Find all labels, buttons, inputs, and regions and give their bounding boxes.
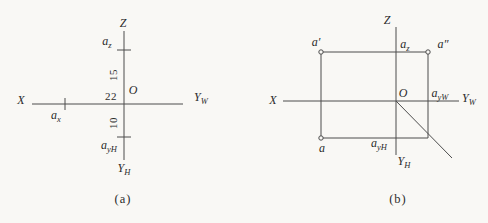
fig-b-point-a-side-marker xyxy=(426,50,430,54)
projection-figure: Z az 15 O X 22 ax YW 10 ayH YH (a) Z a′ … xyxy=(0,0,488,223)
fig-b-z-axis-label: Z xyxy=(384,14,391,26)
fig-a-z-axis-label: Z xyxy=(120,17,127,29)
fig-b-yh-axis-label: YH xyxy=(398,155,411,170)
fig-a-origin-label: O xyxy=(129,84,138,96)
fig-a-az-point-label: az xyxy=(102,35,111,50)
fig-a-yh-axis-label: YH xyxy=(118,162,131,177)
fig-b-a-front-label: a′ xyxy=(312,36,321,48)
fig-b-yw-axis-label: YW xyxy=(462,92,476,107)
figure-linework xyxy=(0,0,488,223)
fig-a-dim-15: 15 xyxy=(108,69,119,81)
fig-a-x-axis-label: X xyxy=(17,94,24,106)
fig-b-origin-label: O xyxy=(399,87,408,99)
fig-a-dim-22: 22 xyxy=(105,91,117,102)
fig-b-a-side-label: a″ xyxy=(438,38,449,50)
fig-b-caption: (b) xyxy=(389,193,407,206)
fig-b-az-point-label: az xyxy=(400,38,409,53)
fig-b-x-axis-label: X xyxy=(269,94,276,106)
fig-b-a-top-label: a xyxy=(319,142,325,154)
fig-a-yw-axis-label: YW xyxy=(194,91,208,106)
fig-a-ayh-point-label: ayH xyxy=(101,139,117,154)
fig-b-point-a-front-marker xyxy=(319,50,323,54)
fig-b-ayh-point-label: ayH xyxy=(371,137,387,152)
fig-a-caption: (a) xyxy=(115,193,132,206)
fig-a-ax-point-label: ax xyxy=(51,109,61,124)
fig-b-miter-45-line xyxy=(396,101,452,158)
fig-b-point-a-top-marker xyxy=(319,136,323,140)
fig-a-dim-10: 10 xyxy=(108,117,119,129)
fig-b-ayw-point-label: ayW xyxy=(432,87,449,102)
